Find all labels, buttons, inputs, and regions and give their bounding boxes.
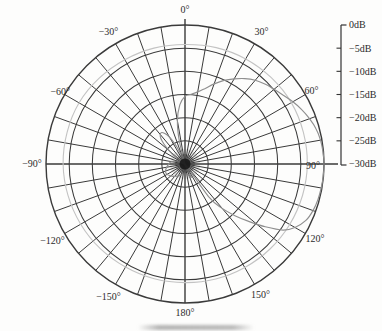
angle-tick-label: 60°: [304, 85, 318, 96]
db-tick-label: −30dB: [349, 158, 377, 169]
radiation-pattern-figure: 0°30°60°90°120°150°180°−30°−60°−90°−120°…: [0, 0, 382, 331]
angle-tick-label: 0°: [181, 4, 190, 15]
angle-tick-label: 90°: [306, 160, 320, 171]
angle-tick-label: 30°: [255, 26, 269, 37]
angle-tick-label: 150°: [251, 289, 270, 300]
angle-tick-label: −150°: [96, 291, 121, 302]
angle-tick-label: −30°: [99, 26, 119, 37]
db-tick-label: −5dB: [349, 43, 372, 54]
db-tick-label: 0dB: [349, 19, 366, 30]
angle-tick-label: −120°: [40, 235, 65, 246]
db-tick-label: −10dB: [349, 66, 377, 77]
center-blob: [180, 159, 191, 170]
cropped-caption-artifact: [138, 325, 254, 330]
db-tick-label: −25dB: [349, 135, 377, 146]
polar-chart: 0°30°60°90°120°150°180°−30°−60°−90°−120°…: [0, 0, 382, 331]
db-tick-label: −20dB: [349, 112, 377, 123]
angle-tick-label: −60°: [50, 86, 70, 97]
angle-tick-label: 180°: [176, 307, 195, 318]
db-tick-label: −15dB: [349, 89, 377, 100]
angle-tick-label: 120°: [305, 233, 324, 244]
angle-tick-label: −90°: [22, 158, 42, 169]
